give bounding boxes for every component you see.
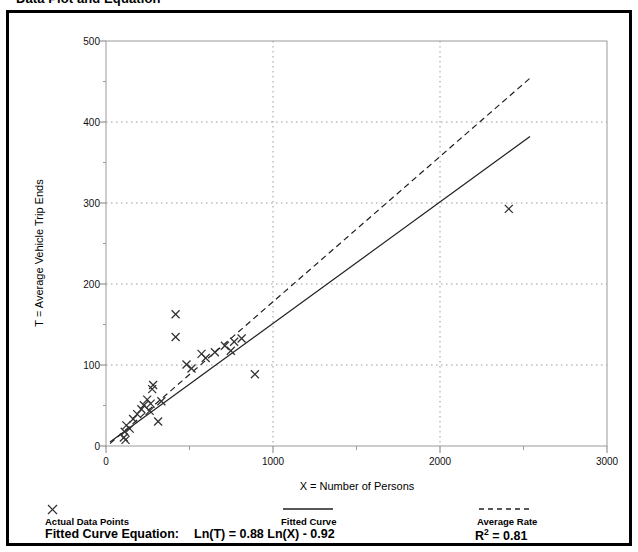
chart-plot-area: T = Average Vehicle Trip Ends 500 400 30… [9, 13, 629, 543]
y-tick-label-300: 300 [83, 198, 100, 209]
x-tick-label-3000: 3000 [596, 456, 619, 467]
y-tick-label-100: 100 [83, 360, 100, 371]
r-squared-number: = 0.81 [489, 529, 528, 543]
x-tick-label-0: 0 [103, 456, 109, 467]
r-squared-value: R2 = 0.81 [475, 527, 527, 543]
legend-entry-average-rate: Average Rate [477, 503, 537, 527]
x-axis-title: X = Number of Persons [300, 480, 415, 492]
r-squared-base: R [475, 529, 484, 543]
figure-container: T = Average Vehicle Trip Ends 500 400 30… [6, 10, 632, 546]
chart-legend: Actual Data Points Fitted Curve Average … [9, 501, 635, 525]
legend-label-average-rate: Average Rate [477, 516, 537, 527]
legend-label-data-points: Actual Data Points [45, 516, 129, 527]
dashed-line-icon [477, 503, 533, 515]
page-title: Data Plot and Equation [16, 0, 160, 6]
legend-label-fitted-curve: Fitted Curve [281, 516, 336, 527]
solid-line-icon [281, 503, 337, 515]
fitted-curve-equation: Fitted Curve Equation: Ln(T) = 0.88 Ln(X… [45, 527, 335, 541]
x-tick-label-1000: 1000 [262, 456, 285, 467]
equation-footer: Fitted Curve Equation: Ln(T) = 0.88 Ln(X… [9, 527, 635, 552]
y-tick-label-200: 200 [83, 279, 100, 290]
y-tick-label-400: 400 [83, 117, 100, 128]
legend-entry-fitted-curve: Fitted Curve [281, 503, 337, 527]
plot-frame [106, 41, 607, 446]
equation-label: Fitted Curve Equation: [45, 527, 179, 541]
scatter-chart-svg: T = Average Vehicle Trip Ends 500 400 30… [9, 13, 629, 543]
x-marker-icon [45, 503, 61, 515]
y-axis-title: T = Average Vehicle Trip Ends [33, 179, 45, 327]
equation-formula: Ln(T) = 0.88 Ln(X) - 0.92 [194, 527, 335, 541]
x-tick-label-2000: 2000 [429, 456, 452, 467]
legend-entry-data-points: Actual Data Points [45, 503, 129, 527]
y-tick-label-0: 0 [94, 441, 100, 452]
y-tick-label-500: 500 [83, 36, 100, 47]
